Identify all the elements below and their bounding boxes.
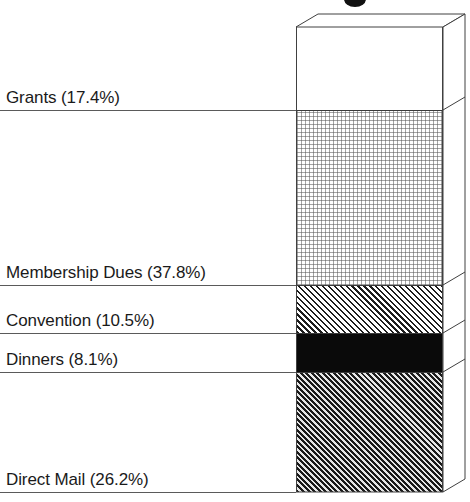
segment-label-dinners: Dinners (8.1%) [6,350,118,370]
divider-dinners-directmail [297,372,442,373]
leader-line-convention [0,333,296,334]
bar-segment-membership-dues[interactable] [297,110,442,285]
side-divider-grants-membership [443,97,465,110]
side-divider-convention-dinners [443,320,465,333]
leader-line-direct-mail [0,492,296,493]
divider-convention-dinners [297,333,442,334]
segment-label-membership-dues: Membership Dues (37.8%) [6,263,206,283]
bar-segment-direct-mail[interactable] [297,372,442,492]
leader-line-dinners [0,372,296,373]
bar-front-face [296,27,443,492]
bar-segment-dinners[interactable] [297,333,442,372]
side-divider-dinners-directmail [443,359,465,372]
leader-line-grants [0,110,296,111]
bar-segment-convention[interactable] [297,285,442,333]
divider-membership-convention [297,285,442,286]
bar-right-face [443,14,465,492]
stacked-bar-chart: Grants (17.4%) Membership Dues (37.8%) C… [0,0,470,502]
bar-top-face [296,14,465,27]
side-divider-membership-convention [443,272,465,285]
bar-column-3d [0,0,470,502]
segment-label-grants: Grants (17.4%) [6,88,120,108]
segment-label-convention: Convention (10.5%) [6,311,154,331]
leader-line-membership-dues [0,285,296,286]
segment-label-direct-mail: Direct Mail (26.2%) [6,470,149,490]
bar-segment-grants[interactable] [297,27,442,110]
divider-grants-membership [297,110,442,111]
